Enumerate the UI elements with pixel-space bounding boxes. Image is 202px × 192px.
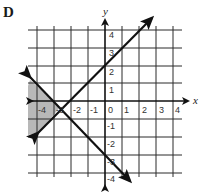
x-tick: 3 — [159, 105, 164, 115]
y-tick: -4 — [107, 174, 115, 184]
x-tick: 4 — [175, 105, 180, 115]
y-tick: 4 — [109, 30, 114, 40]
x-axis-label: x — [192, 94, 198, 106]
y-tick: 2 — [109, 67, 114, 77]
y-tick: -3 — [107, 157, 115, 167]
x-tick: 2 — [142, 105, 147, 115]
x-tick: 1 — [124, 105, 129, 115]
x-tick: -3 — [56, 105, 64, 115]
rising-line — [38, 18, 152, 133]
coordinate-graph: y x -4 -3 -2 -1 0 1 2 3 4 4 3 2 1 -1 -2 … — [0, 0, 202, 192]
x-tick: -2 — [73, 105, 81, 115]
x-tick: 0 — [108, 105, 113, 115]
y-tick: -1 — [107, 121, 115, 131]
y-tick: -2 — [107, 139, 115, 149]
y-tick: 3 — [109, 48, 114, 58]
x-tick: -1 — [90, 105, 98, 115]
y-tick: 1 — [109, 85, 114, 95]
x-tick-labels: -4 -3 -2 -1 0 1 2 3 4 — [38, 105, 180, 115]
y-axis-label: y — [102, 5, 108, 17]
x-tick: -4 — [38, 105, 46, 115]
